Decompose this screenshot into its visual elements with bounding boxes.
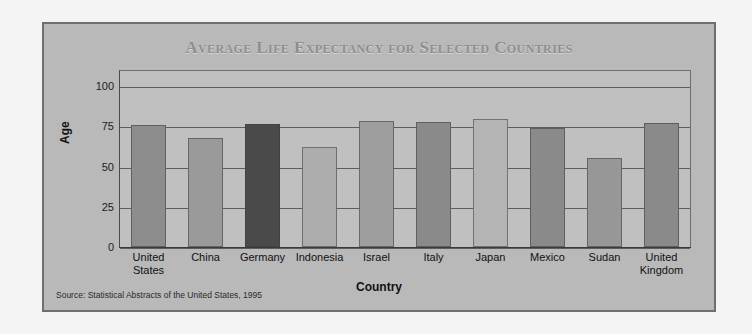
bar-slot <box>519 70 576 247</box>
x-tick-label-japan: Japan <box>462 251 519 277</box>
x-tick-label-germany: Germany <box>234 251 291 277</box>
x-tick-label-italy: Italy <box>405 251 462 277</box>
y-tick-label-0: 0 <box>62 241 114 253</box>
x-axis-baseline <box>119 247 691 248</box>
bar-slot <box>177 70 234 247</box>
bar-slot <box>633 70 690 247</box>
bar-slot <box>291 70 348 247</box>
y-axis-ticks: 0255075100 <box>56 24 114 314</box>
x-tick-label-line: Mexico <box>519 251 576 264</box>
x-tick-label-line: Germany <box>234 251 291 264</box>
x-tick-label-line: Sudan <box>576 251 633 264</box>
x-tick-label-line: Kingdom <box>633 264 690 277</box>
x-tick-label-line: Italy <box>405 251 462 264</box>
x-axis-labels: UnitedStatesChinaGermanyIndonesiaIsraelI… <box>120 251 690 277</box>
bar-sudan[interactable] <box>587 158 621 247</box>
bar-germany[interactable] <box>245 124 279 247</box>
gridline-0 <box>120 248 690 249</box>
bar-mexico[interactable] <box>530 128 564 247</box>
x-tick-label-sudan: Sudan <box>576 251 633 277</box>
x-tick-label-israel: Israel <box>348 251 405 277</box>
y-tick-label-75: 75 <box>62 120 114 132</box>
bar-slot <box>405 70 462 247</box>
bar-slot <box>348 70 405 247</box>
bar-united-kingdom[interactable] <box>644 123 678 247</box>
x-tick-label-line: Israel <box>348 251 405 264</box>
bar-israel[interactable] <box>359 121 393 247</box>
x-tick-label-united-states: UnitedStates <box>120 251 177 277</box>
bar-slot <box>234 70 291 247</box>
bar-slot <box>462 70 519 247</box>
bar-japan[interactable] <box>473 119 507 247</box>
x-tick-label-line: Indonesia <box>291 251 348 264</box>
bar-china[interactable] <box>188 138 222 247</box>
y-tick-label-50: 50 <box>62 161 114 173</box>
chart-title: Average Life Expectancy for Selected Cou… <box>44 38 714 58</box>
x-tick-label-mexico: Mexico <box>519 251 576 277</box>
x-tick-label-line: Japan <box>462 251 519 264</box>
y-tick-label-25: 25 <box>62 201 114 213</box>
bar-series <box>120 70 690 247</box>
bar-slot <box>120 70 177 247</box>
y-tick-label-100: 100 <box>62 80 114 92</box>
x-tick-label-china: China <box>177 251 234 277</box>
bar-slot <box>576 70 633 247</box>
bar-united-states[interactable] <box>131 125 165 247</box>
chart-frame: Average Life Expectancy for Selected Cou… <box>42 22 716 312</box>
x-tick-label-line: China <box>177 251 234 264</box>
x-tick-label-indonesia: Indonesia <box>291 251 348 277</box>
x-tick-label-united-kingdom: UnitedKingdom <box>633 251 690 277</box>
x-tick-label-line: United <box>633 251 690 264</box>
x-tick-label-line: States <box>120 264 177 277</box>
x-tick-label-line: United <box>120 251 177 264</box>
source-note: Source: Statistical Abstracts of the Uni… <box>56 290 262 300</box>
bar-italy[interactable] <box>416 122 450 248</box>
bar-indonesia[interactable] <box>302 147 336 247</box>
